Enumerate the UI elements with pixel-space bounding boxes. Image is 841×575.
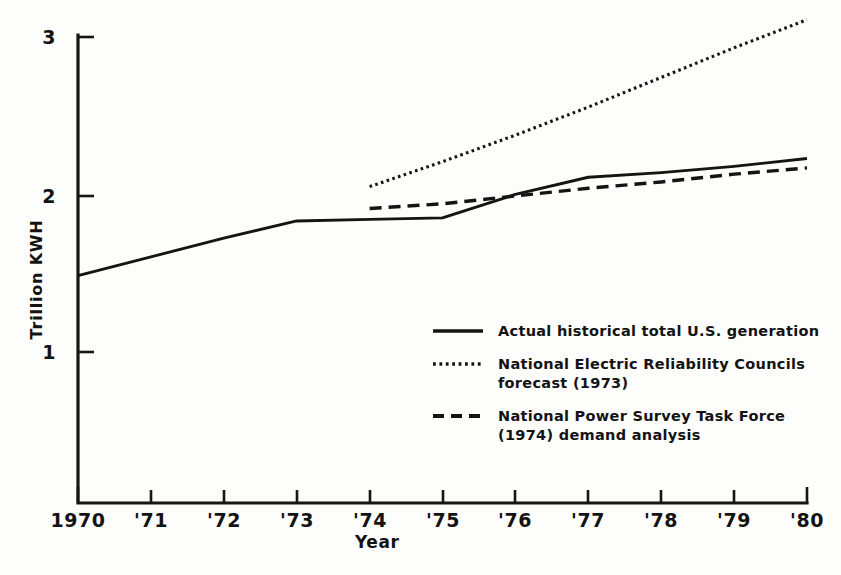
chart-legend: Actual historical total U.S. generation … [432,322,832,459]
solid-line-swatch [432,322,484,340]
y-tick-label-3: 3 [22,26,56,48]
chart-figure: 3 2 1 Trillion KWH 1970 '71 '72 '73 '74 … [0,0,841,575]
x-tick-label-73: '73 [262,509,332,531]
y-axis-ticks [78,37,94,352]
x-tick-label-75: '75 [408,509,478,531]
series-line-nerc-forecast [370,20,807,187]
x-axis-ticks [78,487,807,503]
x-tick-label-1970: 1970 [43,509,113,531]
series-line-nps-task-force [370,168,807,209]
dotted-line-swatch [432,355,484,373]
series-line-actual-historical [78,159,807,276]
x-tick-label-71: '71 [116,509,186,531]
legend-item-nerc-forecast: National Electric Reliability Councils f… [432,355,832,394]
x-tick-label-77: '77 [553,509,623,531]
legend-label-nerc-forecast: National Electric Reliability Councils f… [498,355,805,394]
legend-item-nps-task-force: National Power Survey Task Force (1974) … [432,407,832,446]
legend-item-actual-historical: Actual historical total U.S. generation [432,322,832,342]
x-tick-label-79: '79 [699,509,769,531]
x-tick-label-78: '78 [626,509,696,531]
dashed-line-swatch [432,407,484,425]
x-tick-label-80: '80 [772,509,841,531]
x-tick-label-76: '76 [480,509,550,531]
x-tick-label-74: '74 [335,509,405,531]
legend-label-nps-task-force: National Power Survey Task Force (1974) … [498,407,785,446]
y-axis-title: Trillion KWH [27,200,46,360]
legend-label-actual-historical: Actual historical total U.S. generation [498,322,819,342]
chart-plot-area [0,0,841,575]
x-tick-label-72: '72 [189,509,259,531]
x-axis-title: Year [355,532,400,552]
